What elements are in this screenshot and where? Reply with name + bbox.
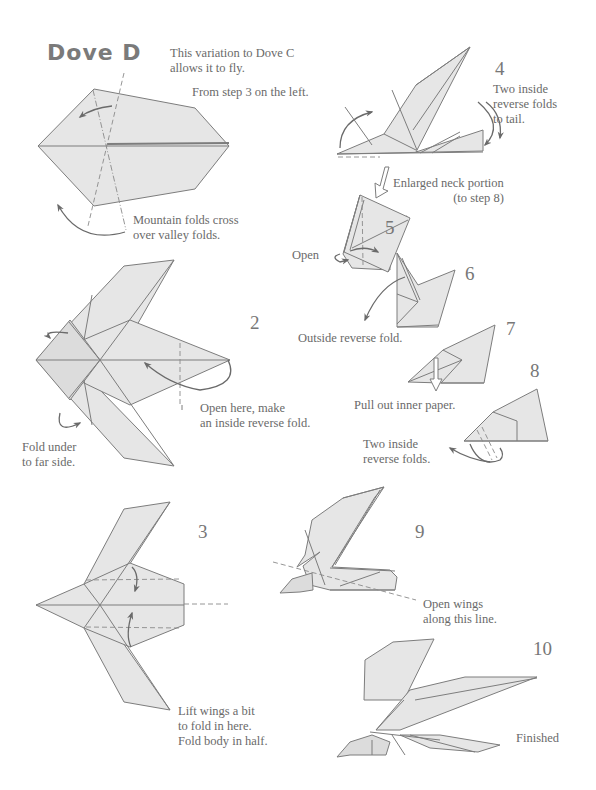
step10-note: Finished (516, 731, 559, 746)
step2-note-fold-under: Fold under to far side. (22, 440, 77, 470)
step8-diagram (450, 389, 548, 462)
intro-text: This variation to Dove C allows it to fl… (170, 46, 294, 76)
step8-number: 8 (530, 360, 540, 382)
step9-note: Open wings along this line. (423, 597, 497, 627)
step10-number: 10 (533, 638, 552, 660)
step2-number: 2 (250, 312, 260, 334)
step10-diagram (337, 639, 537, 757)
step4-note: Two inside reverse folds to tail. (493, 82, 557, 127)
step5-number: 5 (385, 217, 395, 239)
step8-note: Two inside reverse folds. (363, 437, 430, 467)
step4-lead: From step 3 on the left. (192, 85, 309, 100)
page-title: Dove D (47, 40, 142, 65)
step1-note: Mountain folds cross over valley folds. (133, 213, 239, 243)
step9-number: 9 (415, 521, 425, 543)
step7-diagram (408, 325, 495, 391)
step5-note: Open (292, 248, 319, 263)
step2-diagram (36, 260, 231, 466)
step9-diagram (273, 487, 416, 600)
step3-number: 3 (198, 521, 208, 543)
step3-note: Lift wings a bit to fold in here. Fold b… (178, 704, 268, 749)
step2-note-open: Open here, make an inside reverse fold. (200, 401, 310, 431)
step7-note: Pull out inner paper. (354, 398, 455, 413)
step6-note: Outside reverse fold. (298, 331, 402, 346)
step4-number: 4 (495, 58, 505, 80)
enlarge-note: Enlarged neck portion (to step 8) (393, 176, 504, 206)
step7-number: 7 (506, 318, 516, 340)
step6-number: 6 (465, 263, 475, 285)
